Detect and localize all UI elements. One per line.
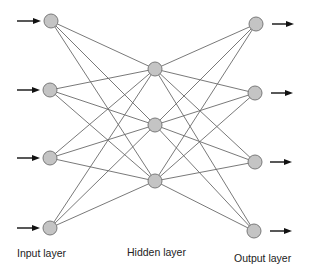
- neurons: [43, 14, 263, 238]
- connection-edge: [50, 90, 155, 125]
- connection-edge: [50, 158, 155, 181]
- output-node-1: [249, 17, 263, 31]
- input-node-4: [43, 221, 57, 235]
- hidden-node-2: [148, 118, 162, 132]
- connection-edge: [155, 24, 256, 125]
- connection-edge: [155, 125, 255, 162]
- connection-edge: [155, 24, 256, 181]
- connection-edge: [50, 125, 155, 158]
- arrow-icon: [17, 155, 40, 161]
- connection-edge: [155, 69, 255, 162]
- connection-edge: [50, 90, 155, 181]
- arrow-icon: [272, 21, 294, 27]
- arrow-icon: [17, 87, 40, 93]
- arrow-icon: [270, 228, 292, 234]
- hidden-layer-label: Hidden layer: [127, 246, 186, 258]
- connection-edge: [51, 21, 155, 125]
- arrow-icon: [17, 225, 40, 231]
- connection-edge: [50, 69, 155, 158]
- output-node-4: [247, 224, 261, 238]
- input-node-2: [43, 83, 57, 97]
- hidden-node-1: [148, 62, 162, 76]
- connection-edge: [155, 93, 255, 125]
- output-node-2: [248, 86, 262, 100]
- neural-network-diagram: [0, 0, 310, 273]
- input-node-3: [43, 151, 57, 165]
- connection-edge: [155, 69, 254, 231]
- arrow-icon: [271, 90, 293, 96]
- hidden-node-3: [148, 174, 162, 188]
- input-node-1: [44, 14, 58, 28]
- input-layer-label: Input layer: [17, 247, 66, 259]
- connection-edge: [155, 69, 255, 93]
- connection-edge: [155, 93, 255, 181]
- output-node-3: [248, 155, 262, 169]
- arrow-icon: [270, 159, 292, 165]
- output-layer-label: Output layer: [234, 252, 291, 264]
- connection-edge: [155, 24, 256, 69]
- connection-edge: [50, 125, 155, 228]
- arrow-icon: [17, 18, 41, 24]
